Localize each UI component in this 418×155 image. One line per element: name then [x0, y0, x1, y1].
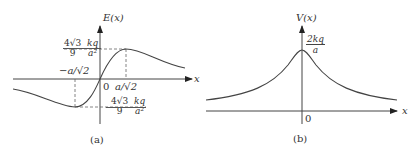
panel-a-x-axis-label: x: [194, 74, 200, 84]
panel-a-y-axis-label: E(x): [103, 13, 124, 23]
panel-b-axes: [206, 26, 397, 124]
min-x-label: −a/√2: [59, 66, 89, 76]
panel-a-origin-label: 0: [103, 82, 109, 92]
min-var-fraction: kq a²: [133, 96, 146, 116]
panel-b-caption: (b): [293, 134, 307, 144]
max-fraction-bar: [63, 48, 101, 49]
panel-b-origin-label: 0: [305, 114, 311, 124]
panel-b-y-axis-label: V(x): [296, 13, 317, 23]
panel-b-x-axis-label: x: [402, 106, 408, 116]
panel-a-axes: [13, 26, 192, 124]
peak-value-fraction: 2kq a: [306, 34, 325, 55]
min-coef-fraction: 4√3 9: [110, 96, 129, 116]
max-x-label: a/√2: [115, 82, 137, 92]
diagram-canvas: [0, 0, 418, 155]
min-fraction-bar: [106, 107, 146, 108]
panel-a-caption: (a): [90, 135, 104, 145]
